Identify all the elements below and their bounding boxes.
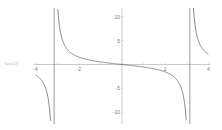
svg-text:2: 2 <box>164 66 167 72</box>
svg-text:-5: -5 <box>116 85 121 91</box>
svg-text:-4: -4 <box>33 66 38 72</box>
svg-text:10: 10 <box>114 14 120 20</box>
svg-text:5: 5 <box>117 38 120 44</box>
axes <box>34 8 211 124</box>
svg-text:-10: -10 <box>113 109 120 115</box>
function-plot: Tan[x/2] -4-224105-5-10 <box>0 0 222 130</box>
function-label: Tan[x/2] <box>4 61 18 66</box>
svg-text:-2: -2 <box>77 66 82 72</box>
svg-text:4: 4 <box>207 66 210 72</box>
